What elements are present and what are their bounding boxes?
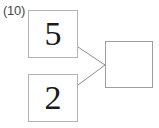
worksheet-figure: (10) 5 2 — [0, 0, 159, 128]
result-answer-box[interactable] — [105, 41, 153, 88]
problem-number-label: (10) — [3, 4, 25, 18]
operand-box-bottom: 2 — [28, 74, 78, 122]
operand-value-top: 5 — [45, 17, 62, 51]
operand-value-bottom: 2 — [45, 81, 62, 115]
connector-line-top — [78, 47, 105, 65]
operand-box-top: 5 — [28, 10, 78, 58]
connector-line-bottom — [78, 65, 105, 85]
